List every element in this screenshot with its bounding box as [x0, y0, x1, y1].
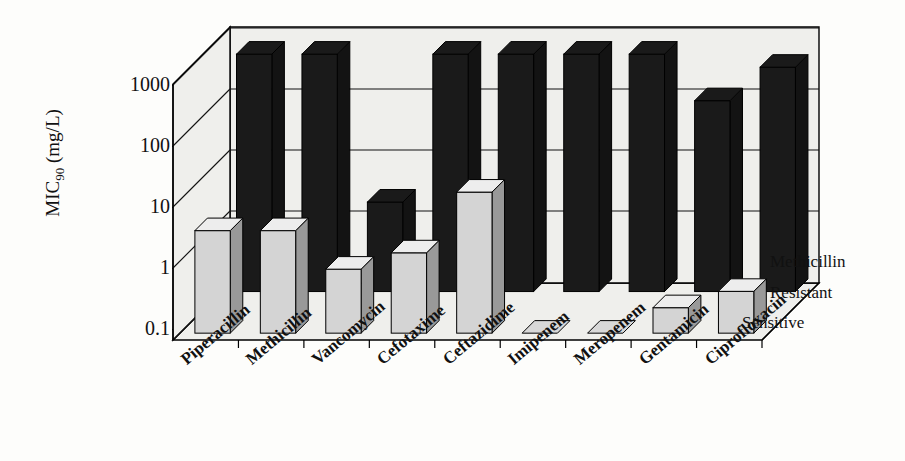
bar-gentamicin-resistant: [695, 88, 743, 291]
bar-imipenem-resistant: [564, 42, 612, 292]
bar-meropenem-resistant: [629, 42, 677, 292]
legend-label-methicillin: Methicillin: [770, 252, 846, 272]
bar-methicillin-resistant: [302, 42, 350, 292]
chart-root: MIC90 (mg/L) 1000 100 10 1 0.1: [0, 0, 905, 461]
bar-ceftazidime-resistant: [498, 42, 546, 292]
plot-area: [0, 0, 905, 461]
